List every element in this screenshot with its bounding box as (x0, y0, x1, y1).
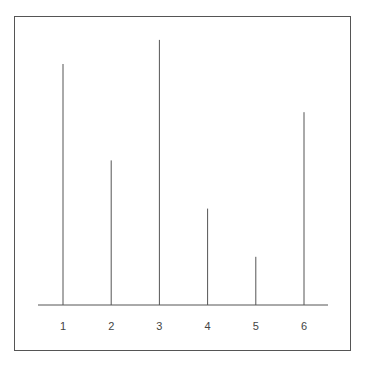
stems-group (63, 40, 304, 305)
x-tick-label: 3 (156, 320, 162, 332)
stem-chart: 123456 (0, 0, 367, 367)
x-tick-label: 2 (108, 320, 114, 332)
x-tick-label: 1 (60, 320, 66, 332)
x-tick-label: 4 (205, 320, 211, 332)
x-tick-label: 5 (253, 320, 259, 332)
x-tick-labels: 123456 (60, 320, 307, 332)
x-tick-label: 6 (301, 320, 307, 332)
